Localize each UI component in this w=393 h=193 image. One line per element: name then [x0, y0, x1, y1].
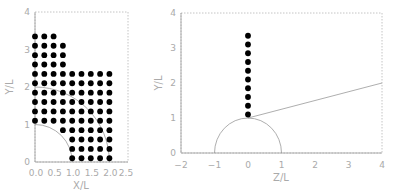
data-point: [245, 50, 251, 56]
left-xtick-4: 2.0: [103, 168, 118, 178]
data-point: [107, 137, 113, 143]
data-point: [69, 108, 75, 114]
left-xtick-5: 2.5: [119, 168, 133, 178]
data-point: [245, 59, 251, 65]
right-y-axis-label: Y/L: [153, 75, 164, 91]
data-point: [41, 71, 47, 77]
data-point: [41, 62, 47, 68]
left-plot: 0 1 2 3 4 0.0 0.5 1.0 1.5 2.0 2.5 X/L Y/…: [4, 7, 133, 191]
data-point: [51, 71, 57, 77]
data-point: [107, 155, 113, 161]
data-point: [60, 71, 66, 77]
data-point: [41, 90, 47, 96]
left-y-axis-label: Y/L: [4, 79, 15, 95]
data-point: [69, 71, 75, 77]
data-point: [107, 90, 113, 96]
left-ytick-2: 2: [24, 82, 30, 92]
quarter-circle-curve: [35, 125, 72, 163]
right-xtick-1: −1: [208, 160, 221, 170]
data-point: [69, 99, 75, 105]
right-dots: [245, 33, 251, 118]
data-point: [69, 137, 75, 143]
data-point: [60, 127, 66, 133]
data-point: [41, 80, 47, 86]
data-point: [32, 33, 38, 39]
data-point: [107, 108, 113, 114]
data-point: [41, 108, 47, 114]
data-point: [97, 90, 103, 96]
right-xtick-5: 3: [346, 160, 352, 170]
sloped-line: [248, 83, 382, 118]
data-point: [60, 52, 66, 58]
data-point: [97, 71, 103, 77]
left-xtick-3: 1.5: [85, 168, 99, 178]
data-point: [97, 146, 103, 152]
right-ytick-3: 3: [170, 43, 176, 53]
data-point: [245, 85, 251, 91]
data-point: [79, 99, 85, 105]
data-point: [51, 62, 57, 68]
right-xtick-4: 2: [312, 160, 318, 170]
data-point: [32, 108, 38, 114]
data-point: [107, 99, 113, 105]
data-point: [107, 118, 113, 124]
data-point: [97, 80, 103, 86]
data-point: [88, 118, 94, 124]
data-point: [79, 137, 85, 143]
data-point: [79, 108, 85, 114]
data-point: [97, 137, 103, 143]
data-point: [60, 118, 66, 124]
data-point: [32, 118, 38, 124]
left-ytick-1: 1: [24, 120, 30, 130]
right-xtick-2: 0: [245, 160, 251, 170]
data-point: [32, 52, 38, 58]
data-point: [41, 99, 47, 105]
left-ytick-0: 0: [24, 157, 30, 167]
left-ytick-3: 3: [24, 45, 30, 55]
data-point: [60, 108, 66, 114]
data-point: [41, 118, 47, 124]
figure: 0 1 2 3 4 0.0 0.5 1.0 1.5 2.0 2.5 X/L Y/…: [0, 0, 393, 193]
data-point: [97, 127, 103, 133]
data-point: [88, 127, 94, 133]
data-point: [51, 99, 57, 105]
data-point: [41, 43, 47, 49]
data-point: [245, 103, 251, 109]
data-point: [69, 118, 75, 124]
data-point: [88, 71, 94, 77]
left-y-tick-labels: 0 1 2 3 4: [24, 7, 30, 167]
data-point: [79, 118, 85, 124]
data-point: [41, 52, 47, 58]
data-point: [32, 99, 38, 105]
data-point: [32, 80, 38, 86]
right-curves: [215, 83, 383, 153]
data-point: [32, 71, 38, 77]
right-ytick-0: 0: [170, 148, 176, 158]
data-point: [69, 90, 75, 96]
data-point: [51, 33, 57, 39]
right-plot-frame: [181, 13, 382, 153]
data-point: [107, 146, 113, 152]
left-xtick-0: 0.0: [29, 168, 44, 178]
left-x-axis-label: X/L: [73, 180, 89, 191]
data-point: [245, 112, 251, 118]
data-point: [97, 99, 103, 105]
data-point: [69, 127, 75, 133]
data-point: [60, 80, 66, 86]
data-point: [32, 43, 38, 49]
data-point: [245, 33, 251, 39]
left-xtick-2: 1.0: [66, 168, 81, 178]
right-ytick-1: 1: [170, 113, 176, 123]
data-point: [79, 71, 85, 77]
data-point: [79, 90, 85, 96]
left-dots: [32, 33, 112, 161]
data-point: [97, 155, 103, 161]
left-x-tick-labels: 0.0 0.5 1.0 1.5 2.0 2.5: [29, 168, 133, 178]
data-point: [88, 90, 94, 96]
data-point: [107, 80, 113, 86]
data-point: [107, 71, 113, 77]
data-point: [88, 108, 94, 114]
right-x-tick-labels: −2 −1 0 1 2 3 4: [174, 160, 385, 170]
data-point: [97, 108, 103, 114]
data-point: [245, 68, 251, 74]
